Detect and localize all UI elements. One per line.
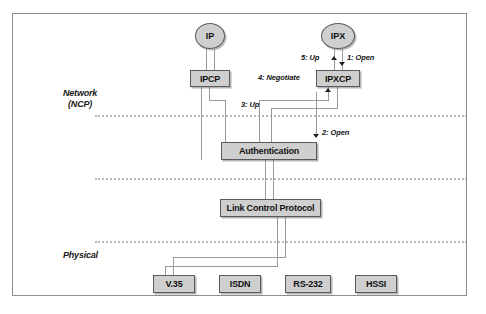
- step-label-3-up: 3: Up: [241, 100, 259, 109]
- line-ipcp-right-a: [209, 100, 225, 101]
- line-open-into-authentication: [316, 92, 317, 134]
- node-physical-isdn-label: ISDN: [230, 279, 251, 289]
- node-physical-rs232[interactable]: RS-232: [285, 275, 331, 293]
- step-label-1-open: 1: Open: [347, 53, 374, 62]
- node-ipxcp[interactable]: IPXCP: [316, 70, 360, 87]
- layer-label-network-line2: (NCP): [63, 99, 97, 110]
- arrow-step5-up: [331, 56, 337, 60]
- layer-label-network: Network (NCP): [63, 88, 97, 110]
- arrow-step3-up: [325, 88, 331, 92]
- line-v35-up-b: [165, 266, 166, 275]
- line-ipxcp-left-a: [259, 100, 329, 101]
- node-authentication[interactable]: Authentication: [221, 142, 317, 160]
- arrow-step1-open: [339, 62, 345, 66]
- node-ip-label: IP: [206, 31, 215, 41]
- node-authentication-label: Authentication: [239, 146, 299, 156]
- line-lcp-to-v35-a: [173, 257, 286, 258]
- node-ipcp[interactable]: IPCP: [190, 70, 230, 87]
- layer-label-physical-line1: Physical: [63, 250, 98, 261]
- layer-divider-physical: [95, 241, 467, 243]
- node-ipcp-label: IPCP: [200, 74, 220, 84]
- line-ipcp-down-a: [201, 87, 202, 160]
- node-physical-hssi-label: HSSI: [366, 279, 386, 289]
- node-lcp[interactable]: Link Control Protocol: [220, 199, 321, 217]
- node-ipx[interactable]: IPX: [321, 23, 355, 49]
- line-ip-to-ipcp-right: [214, 49, 215, 71]
- step-label-4-negotiate: 4: Negotiate: [258, 73, 300, 82]
- line-ip-to-ipcp-left: [206, 49, 207, 71]
- line-ipxcp-left-b: [271, 108, 338, 109]
- arrow-step2-open: [313, 134, 319, 138]
- line-lcp-to-v35-b: [165, 266, 278, 267]
- line-lcp-down-b: [285, 217, 286, 257]
- figure-frame: Network (NCP) Physical IP IPX: [12, 13, 467, 296]
- node-physical-v35-label: V.35: [166, 279, 183, 289]
- node-physical-v35[interactable]: V.35: [153, 275, 195, 293]
- node-physical-hssi[interactable]: HSSI: [355, 275, 397, 293]
- line-ipxcp-down-b: [337, 87, 338, 108]
- layer-label-physical: Physical: [63, 250, 98, 261]
- node-lcp-label: Link Control Protocol: [227, 203, 315, 213]
- node-ip[interactable]: IP: [195, 23, 225, 49]
- node-physical-isdn[interactable]: ISDN: [219, 275, 261, 293]
- step-label-5-up: 5: Up: [301, 53, 319, 62]
- step-label-2-open: 2: Open: [322, 128, 349, 137]
- line-ipcp-down-b: [209, 87, 210, 100]
- line-lcp-down-a: [277, 217, 278, 266]
- layer-divider-authentication: [95, 178, 467, 180]
- node-ipxcp-label: IPXCP: [325, 74, 351, 84]
- layer-label-network-line1: Network: [63, 88, 97, 99]
- line-ipx-to-ipxcp-right: [342, 49, 343, 71]
- node-physical-rs232-label: RS-232: [293, 279, 322, 289]
- node-ipx-label: IPX: [331, 31, 346, 41]
- layer-divider-network: [95, 115, 467, 117]
- line-ipx-to-ipxcp-left: [334, 49, 335, 71]
